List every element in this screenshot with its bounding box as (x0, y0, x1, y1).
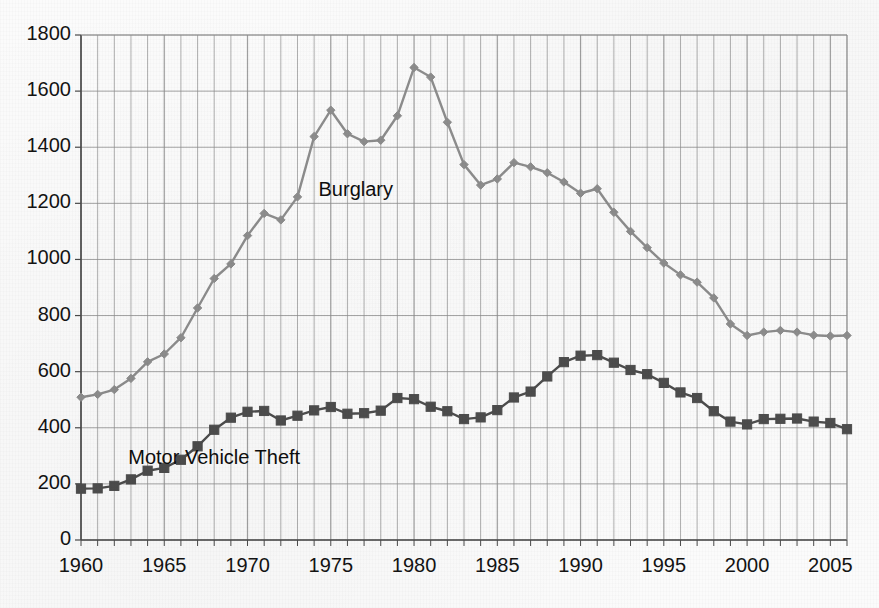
data-point-marker (409, 395, 418, 404)
x-axis-tick-label: 1980 (384, 554, 444, 577)
data-point-marker (393, 393, 402, 402)
x-axis-tick-label: 1965 (134, 554, 194, 577)
crime-rate-line-chart: 020040060080010001200140016001800 196019… (0, 0, 879, 608)
data-point-marker (76, 484, 85, 493)
data-point-marker (359, 409, 368, 418)
data-point-marker (826, 418, 835, 427)
data-point-marker (742, 420, 751, 429)
data-point-marker (426, 402, 435, 411)
data-point-marker (709, 407, 718, 416)
y-axis-tick-label: 600 (38, 359, 71, 382)
data-point-marker (809, 417, 818, 426)
data-point-marker (726, 417, 735, 426)
data-point-marker (443, 407, 452, 416)
x-axis-tick-marks (81, 540, 847, 546)
data-point-marker (576, 351, 585, 360)
data-point-marker (626, 365, 635, 374)
x-axis-tick-label: 1990 (551, 554, 611, 577)
series-label-motor-vehicle-theft: Motor Vehicle Theft (128, 446, 300, 469)
data-point-marker (760, 328, 768, 336)
y-axis-tick-label: 0 (60, 527, 71, 550)
x-axis-tick-label: 1995 (634, 554, 694, 577)
data-point-marker (659, 378, 668, 387)
data-point-marker (376, 406, 385, 415)
y-axis-tick-label: 800 (38, 303, 71, 326)
data-point-marker (526, 163, 534, 171)
x-axis-tick-label: 2000 (717, 554, 777, 577)
data-point-marker (243, 407, 252, 416)
y-axis-tick-marks (75, 35, 81, 540)
data-point-marker (326, 402, 335, 411)
data-point-marker (643, 370, 652, 379)
y-axis-tick-label: 1800 (27, 22, 72, 45)
data-point-marker (210, 425, 219, 434)
data-point-marker (609, 358, 618, 367)
y-axis-tick-label: 1600 (27, 78, 72, 101)
data-point-marker (260, 406, 269, 415)
data-point-marker (509, 393, 518, 402)
data-point-marker (293, 411, 302, 420)
x-axis-tick-label: 1975 (301, 554, 361, 577)
data-point-marker (77, 393, 85, 401)
y-axis-tick-label: 400 (38, 415, 71, 438)
x-axis-tick-label: 2005 (800, 554, 860, 577)
data-point-marker (459, 414, 468, 423)
data-point-marker (110, 481, 119, 490)
data-point-marker (843, 331, 851, 339)
data-point-marker (526, 387, 535, 396)
data-point-marker (493, 406, 502, 415)
data-point-marker (443, 118, 451, 126)
data-point-marker (93, 484, 102, 493)
data-point-marker (776, 414, 785, 423)
data-point-marker (93, 390, 101, 398)
data-point-marker (360, 137, 368, 145)
data-point-marker (759, 414, 768, 423)
data-point-marker (543, 372, 552, 381)
data-point-marker (343, 409, 352, 418)
data-point-marker (310, 406, 319, 415)
x-axis-tick-label: 1970 (218, 554, 278, 577)
data-point-marker (476, 413, 485, 422)
y-axis-tick-label: 1200 (27, 190, 72, 213)
data-point-marker (842, 425, 851, 434)
data-point-marker (809, 331, 817, 339)
data-point-marker (792, 414, 801, 423)
plot-canvas (0, 0, 879, 608)
data-point-marker (776, 326, 784, 334)
data-point-marker (276, 416, 285, 425)
data-point-marker (676, 388, 685, 397)
data-point-marker (793, 328, 801, 336)
data-point-marker (226, 413, 235, 422)
x-axis-tick-label: 1985 (467, 554, 527, 577)
data-point-marker (826, 332, 834, 340)
data-point-marker (126, 475, 135, 484)
data-point-marker (593, 351, 602, 360)
data-point-marker (559, 358, 568, 367)
y-axis-tick-label: 200 (38, 471, 71, 494)
data-point-marker (693, 393, 702, 402)
y-axis-tick-label: 1400 (27, 134, 72, 157)
series-label-burglary: Burglary (319, 178, 393, 201)
y-axis-tick-label: 1000 (27, 246, 72, 269)
x-axis-tick-label: 1960 (51, 554, 111, 577)
